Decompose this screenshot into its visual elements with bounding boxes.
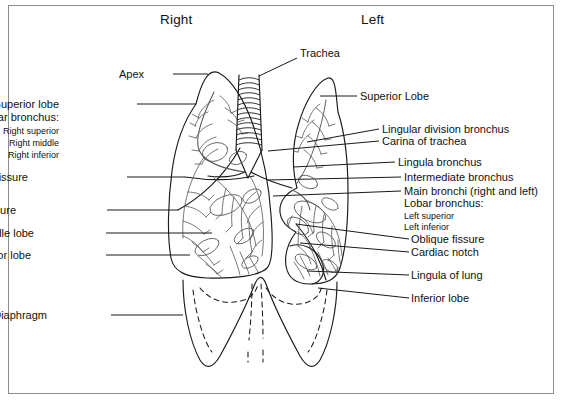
diagram-canvas: RightLeft ApexSuperior lobeLobar bronchu…: [0, 0, 563, 403]
label-left-inferior: Left inferior: [404, 223, 449, 233]
label-superior-lobe-left: Superior Lobe: [360, 91, 429, 103]
label-inferior-lobe-left: Inferior lobe: [411, 293, 469, 305]
label-cardiac-notch: Cardiac notch: [411, 247, 479, 259]
label-carina-of-trachea-leader: [268, 141, 379, 151]
label-lobar-bronchus: Lobar bronchus:: [0, 112, 59, 124]
label-oblique-fissure-left: Oblique fissure: [411, 234, 484, 246]
label-oblique-fissure: Oblique fissure: [0, 205, 16, 217]
label-middle-lobe: Middle lobe: [0, 228, 34, 240]
label-lingula-bronchus: Lingula bronchus: [398, 157, 482, 169]
label-carina-of-trachea: Carina of trachea: [382, 136, 466, 148]
label-diaphragm: Diaphragm: [0, 310, 47, 322]
label-lingula-of-lung: Lingula of lung: [411, 270, 483, 282]
header-right: Right: [160, 12, 193, 27]
label-main-bronchi: Main bronchi (right and left): [404, 186, 538, 198]
label-intermediate-bronchus: Intermediate bronchus: [404, 172, 513, 184]
label-right-middle: Right middle: [9, 139, 59, 149]
label-inferior-lobe-left-leader: [318, 288, 409, 298]
label-right-superior: Right superior: [3, 127, 59, 137]
lingula-of-lung-lobule: [290, 245, 324, 284]
label-apex: Apex: [119, 69, 144, 81]
label-intermediate-bronchus-leader: [268, 177, 401, 180]
label-superior-lobe: Superior lobe: [0, 99, 59, 111]
label-lingular-division: Lingular division bronchus: [382, 124, 509, 136]
bronchial-tree-left: [251, 100, 342, 279]
label-right-inferior: Right inferior: [8, 151, 59, 161]
label-left-superior: Left superior: [404, 212, 454, 222]
trachea-cartilage-rings: [236, 78, 262, 145]
diaphragm-dome-solid: [183, 277, 337, 366]
label-trachea-leader: [259, 58, 297, 76]
label-lobar-bronchus-left: Lobar bronchus:: [404, 198, 484, 210]
label-main-bronchi-leader: [273, 191, 401, 196]
label-trachea: Trachea: [300, 48, 340, 60]
label-horizontal-fissure: Horizontal fissure: [0, 172, 28, 184]
left-lung-outline: [280, 78, 348, 284]
right-main-bronchus: [208, 172, 245, 177]
header-left: Left: [361, 12, 384, 27]
diaphragm-dome-dashed: [193, 284, 327, 362]
label-cardiac-notch-leader: [300, 243, 409, 252]
label-inferior-lobe: Inferior lobe: [0, 250, 31, 262]
label-oblique-fissure-left-leader: [296, 224, 409, 239]
